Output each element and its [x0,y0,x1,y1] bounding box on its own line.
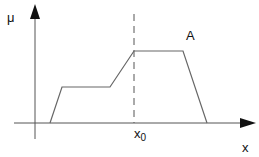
x-axis-label: x [242,140,249,155]
membership-diagram: μ A x0 x [0,0,259,157]
y-axis-label: μ [7,10,15,25]
set-label: A [186,28,195,43]
y-axis-arrow-icon [30,4,40,19]
membership-curve-A [50,51,207,123]
x0-label: x0 [134,126,147,143]
x0-label-sub: 0 [141,132,147,143]
x-axis-arrow-icon [240,118,256,128]
